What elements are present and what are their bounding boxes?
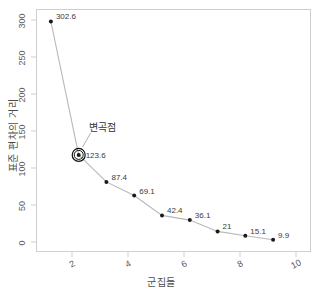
x-axis-title: 군집들 [0, 274, 323, 289]
y-tick-300: 300 [17, 9, 27, 33]
inflection-point-annotation: 변곡점 [89, 119, 116, 134]
data-point-2 [77, 153, 81, 157]
data-point-3 [104, 180, 108, 184]
y-tick-0: 0 [17, 231, 27, 255]
point-label-1: 302.6 [56, 12, 76, 21]
series-line [51, 22, 273, 240]
data-point-8 [243, 234, 247, 238]
point-label-8: 15.1 [250, 227, 266, 236]
data-point-4 [132, 194, 136, 198]
y-tick-200: 200 [17, 83, 27, 107]
point-label-4: 69.1 [139, 187, 155, 196]
point-label-3: 87.4 [111, 173, 127, 182]
y-tick-100: 100 [17, 157, 27, 181]
point-label-2: 123.6 [86, 151, 106, 160]
elbow-leader-line [83, 133, 91, 147]
point-label-6: 36.1 [195, 211, 211, 220]
plot-series-svg [37, 10, 312, 253]
data-point-9 [271, 238, 275, 242]
point-label-9: 9.9 [278, 231, 289, 240]
y-tick-50: 50 [17, 194, 27, 218]
y-tick-250: 250 [17, 46, 27, 70]
x-tick-8: 8 [229, 255, 251, 273]
series-points [49, 20, 275, 242]
point-label-5: 42.4 [167, 206, 183, 215]
data-point-1 [49, 20, 53, 24]
x-tick-2: 2 [61, 255, 83, 273]
point-label-7: 21 [223, 222, 232, 231]
x-tick-6: 6 [173, 255, 195, 273]
data-point-6 [188, 218, 192, 222]
y-tick-150: 150 [17, 120, 27, 144]
x-tick-10: 10 [285, 255, 307, 273]
x-tick-4: 4 [117, 255, 139, 273]
elbow-plot-figure: 표준 편차의 거리 군집들 300 250 200 150 100 50 0 2… [0, 0, 323, 296]
data-point-7 [216, 229, 220, 233]
data-point-5 [160, 213, 164, 217]
plot-panel: 변곡점 302.6 123.6 87.4 69.1 42.4 36.1 21 1… [36, 9, 311, 252]
